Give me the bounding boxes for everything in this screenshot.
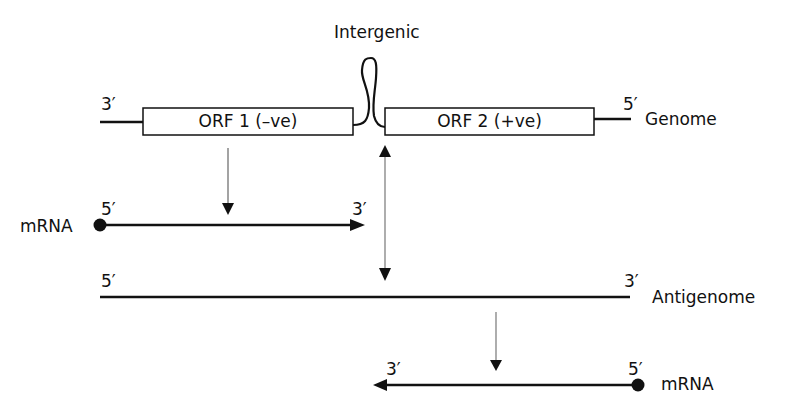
- antigenome-3prime-label: 3′: [624, 273, 639, 290]
- intergenic-label: Intergenic: [334, 24, 420, 41]
- genome-3prime-label: 3′: [101, 96, 116, 113]
- orf1-label: ORF 1 (–ve): [143, 113, 353, 130]
- arrowhead-down-2: [379, 268, 391, 281]
- arrowhead-up: [379, 145, 391, 157]
- mrna2-5prime-label: 5′: [628, 361, 643, 378]
- mrna2-arrowhead: [373, 379, 387, 391]
- arrowhead-down-3: [490, 360, 502, 371]
- mrna1-label: mRNA: [20, 218, 73, 235]
- orf2-label: ORF 2 (+ve): [385, 113, 594, 130]
- antigenome-label: Antigenome: [652, 289, 755, 306]
- cap-dot-2: [632, 379, 645, 392]
- genome-label: Genome: [645, 111, 717, 128]
- diagram-canvas: [0, 0, 786, 408]
- mrna2-3prime-label: 3′: [386, 361, 401, 378]
- mrna1-3prime-label: 3′: [352, 201, 367, 218]
- antigenome-5prime-label: 5′: [101, 273, 116, 290]
- arrowhead-down-1: [222, 203, 234, 215]
- mrna1-arrowhead: [350, 219, 365, 231]
- intergenic-hairpin: [353, 58, 385, 127]
- genome-5prime-label: 5′: [623, 96, 638, 113]
- mrna1-5prime-label: 5′: [101, 201, 116, 218]
- mrna2-label: mRNA: [661, 376, 714, 393]
